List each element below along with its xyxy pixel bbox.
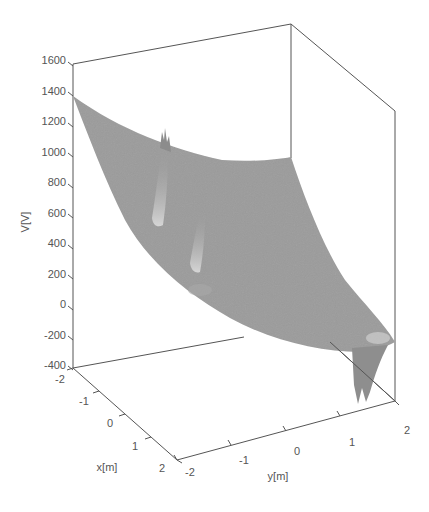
box-edge-top-right (291, 24, 395, 111)
z-axis-ticks (68, 62, 73, 370)
y-axis-tick-labels: -2 -1 0 1 2 (185, 424, 410, 478)
spike-upper-1 (160, 128, 171, 152)
y-tick-2: 2 (404, 424, 410, 436)
z-tick-1600: 1600 (42, 54, 66, 66)
x-tick-1: 1 (132, 440, 138, 452)
surface-texture (73, 96, 395, 352)
x-axis-label: x[m] (97, 461, 118, 473)
z-tick-neg200: -200 (44, 329, 66, 341)
z-tick-1200: 1200 (42, 115, 66, 127)
x-axis-tick-labels: -2 -1 0 1 2 (55, 373, 165, 474)
spike-lower-right-highlight (366, 332, 390, 344)
y-tick-1: 1 (349, 436, 355, 448)
spike-highlight-3 (188, 284, 212, 296)
z-tick-0: 0 (60, 298, 66, 310)
y-tick-neg1: -1 (239, 454, 249, 466)
x-tick-0: 0 (107, 417, 113, 429)
box-edge-back-bottom (73, 337, 244, 368)
z-tick-200: 200 (48, 268, 66, 280)
z-tick-600: 600 (48, 207, 66, 219)
surface-plot: 1600 1400 1200 1000 800 600 400 200 0 -2… (0, 0, 429, 512)
z-tick-400: 400 (48, 237, 66, 249)
x-tick-neg2: -2 (55, 373, 65, 385)
z-axis-tick-labels: 1600 1400 1200 1000 800 600 400 200 0 -2… (42, 54, 66, 371)
x-tick-neg1: -1 (79, 395, 89, 407)
z-tick-800: 800 (48, 176, 66, 188)
x-tick-2: 2 (159, 462, 165, 474)
box-edge-top-left (73, 24, 291, 64)
spike-lower-right (352, 345, 388, 404)
z-tick-1000: 1000 (42, 146, 66, 158)
y-tick-neg2: -2 (185, 466, 195, 478)
z-axis-label: V[V] (19, 212, 31, 233)
z-tick-neg400: -400 (44, 359, 66, 371)
z-tick-1400: 1400 (42, 85, 66, 97)
y-tick-0: 0 (294, 445, 300, 457)
y-axis-label: y[m] (268, 470, 289, 482)
